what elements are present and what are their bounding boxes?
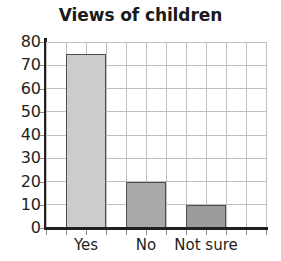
x-axis-tick-mark — [146, 230, 147, 235]
gridline-vertical — [106, 42, 107, 228]
gridline-vertical — [186, 42, 187, 228]
x-axis-line — [44, 227, 268, 230]
x-axis-tick-mark — [246, 230, 247, 235]
y-axis-tick-label: 60 — [1, 81, 41, 97]
y-axis-tick-label: 50 — [1, 104, 41, 120]
gridline-vertical — [266, 42, 267, 228]
plot-area — [46, 42, 266, 228]
x-axis-tick-mark — [206, 230, 207, 235]
y-axis-tick-label: 30 — [1, 150, 41, 166]
gridline-vertical — [166, 42, 167, 228]
x-axis-category-label: Not sure — [156, 236, 256, 254]
bar-chart: Views of children 01020304050607080 YesN… — [0, 0, 281, 261]
y-axis-tick-label: 40 — [1, 127, 41, 143]
gridline-vertical — [46, 42, 47, 228]
gridline-vertical — [226, 42, 227, 228]
x-axis-tick-mark — [106, 230, 107, 235]
y-axis-tick-label: 70 — [1, 57, 41, 73]
x-axis-tick-mark — [66, 230, 67, 235]
x-axis-tick-mark — [86, 230, 87, 235]
x-axis-tick-mark — [186, 230, 187, 235]
y-axis-tick-label: 20 — [1, 174, 41, 190]
chart-title: Views of children — [0, 4, 281, 26]
gridline-horizontal — [46, 42, 266, 43]
x-axis-tick-mark — [126, 230, 127, 235]
y-axis-tick-label: 10 — [1, 197, 41, 213]
y-axis-tick-label: 0 — [1, 220, 41, 236]
bar — [186, 205, 226, 229]
bar — [126, 182, 166, 230]
y-axis-tick-labels: 01020304050607080 — [0, 0, 41, 261]
x-axis-tick-mark — [46, 230, 47, 235]
gridline-vertical — [246, 42, 247, 228]
x-axis-tick-mark — [266, 230, 267, 235]
y-axis-tick-label: 80 — [1, 34, 41, 50]
x-axis-tick-mark — [166, 230, 167, 235]
x-axis-tick-mark — [226, 230, 227, 235]
gridline-vertical — [206, 42, 207, 228]
bar — [66, 54, 106, 229]
